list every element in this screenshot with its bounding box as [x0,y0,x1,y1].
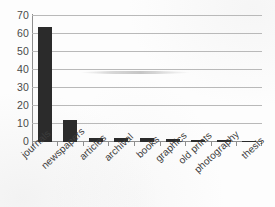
bar-slot-old-prints [185,15,211,142]
y-tick-label-60: 60 [3,28,29,38]
bar-slot-archival [109,15,135,142]
y-tick-label-70: 70 [3,10,29,20]
bar-journals [38,27,52,142]
y-tick-label-30: 30 [3,82,29,92]
bar-chart-figure: 70 60 50 40 30 20 10 0 [0,0,275,207]
x-axis-category-labels: journals newspapers articles archival bo… [0,146,275,207]
y-axis-tick-labels: 70 60 50 40 30 20 10 0 [0,15,29,142]
bar-slot-thesis [237,15,263,142]
bar-slot-photography [211,15,237,142]
y-tick-label-40: 40 [3,64,29,74]
bar-slot-articles [83,15,109,142]
y-tick-label-50: 50 [3,46,29,56]
bar-series [32,15,262,142]
y-tick-label-10: 10 [3,118,29,128]
y-tick-label-20: 20 [3,100,29,110]
bar-slot-newspapers [58,15,84,142]
plot-area [32,15,262,142]
bar-slot-graphics [160,15,186,142]
bar-slot-books [134,15,160,142]
bar-slot-journals [32,15,58,142]
